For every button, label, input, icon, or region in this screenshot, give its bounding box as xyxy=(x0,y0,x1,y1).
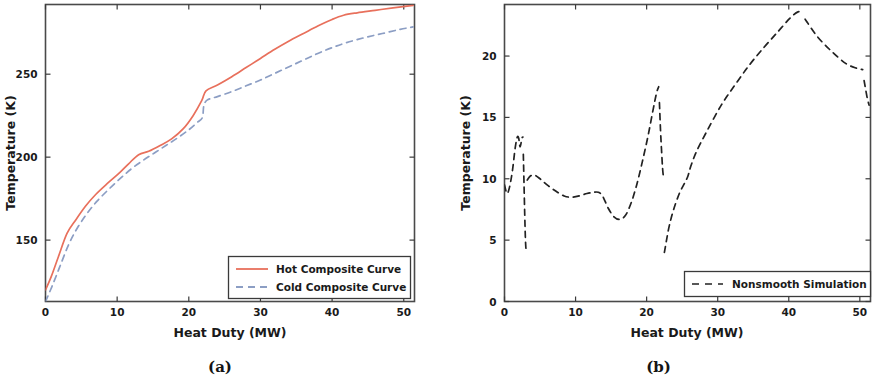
x-axis-label-b: Heat Duty (MW) xyxy=(630,325,743,340)
y-tick-label-a-0: 150 xyxy=(16,234,38,246)
x-tick-label-a-1: 10 xyxy=(110,306,125,318)
plot-frame-b xyxy=(505,5,871,302)
y-tick-label-a-2: 250 xyxy=(16,68,38,80)
y-axis-label-b: Temperature (K) xyxy=(458,95,473,210)
y-tick-label-b-1: 5 xyxy=(489,234,496,246)
x-tick-label-b-1: 10 xyxy=(568,306,583,318)
y-tick-label-b-0: 0 xyxy=(489,296,496,308)
x-tick-label-a-2: 20 xyxy=(181,306,196,318)
y-axis-label-a: Temperature (K) xyxy=(3,95,18,210)
x-tick-label-b-2: 20 xyxy=(639,306,654,318)
panel-a: 01020304050150200250 Heat Duty (MW) Temp… xyxy=(0,0,440,382)
x-axis-label-a: Heat Duty (MW) xyxy=(173,325,286,340)
legend-label-nonsmooth: Nonsmooth Simulation xyxy=(732,278,867,290)
x-tick-label-a-0: 0 xyxy=(42,306,49,318)
x-tick-label-a-4: 40 xyxy=(325,306,340,318)
y-tick-label-b-4: 20 xyxy=(482,50,497,62)
figure-sheet: 01020304050150200250 Heat Duty (MW) Temp… xyxy=(0,0,877,382)
x-tick-label-b-0: 0 xyxy=(501,306,508,318)
legend-label-cold: Cold Composite Curve xyxy=(276,281,406,293)
y-tick-label-b-3: 15 xyxy=(482,111,497,123)
legend-label-hot: Hot Composite Curve xyxy=(276,263,401,275)
legend-a[interactable]: Hot Composite Curve Cold Composite Curve xyxy=(229,257,411,299)
x-tick-label-b-4: 40 xyxy=(781,306,796,318)
chart-b: 0102030405005101520 Heat Duty (MW) Tempe… xyxy=(440,0,877,348)
y-tick-label-a-1: 200 xyxy=(16,151,38,163)
subfigure-caption-b: (b) xyxy=(440,358,877,376)
panel-b: 0102030405005101520 Heat Duty (MW) Tempe… xyxy=(440,0,877,382)
x-tick-label-b-3: 30 xyxy=(710,306,725,318)
x-tick-label-a-3: 30 xyxy=(253,306,268,318)
chart-a: 01020304050150200250 Heat Duty (MW) Temp… xyxy=(0,0,440,348)
subfigure-caption-a: (a) xyxy=(0,358,440,376)
y-tick-label-b-2: 10 xyxy=(482,173,497,185)
x-tick-label-b-5: 50 xyxy=(853,306,868,318)
x-tick-label-a-5: 50 xyxy=(396,306,411,318)
legend-b[interactable]: Nonsmooth Simulation xyxy=(685,272,871,297)
